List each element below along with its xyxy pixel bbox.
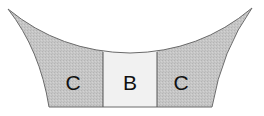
label-center-b: B <box>123 71 137 94</box>
label-right-c: C <box>173 71 188 94</box>
bowl-diagram: C B C <box>0 0 264 116</box>
region-center-b <box>103 0 157 116</box>
label-left-c: C <box>65 71 80 94</box>
region-left-c <box>0 0 103 116</box>
region-right-c <box>157 0 264 116</box>
